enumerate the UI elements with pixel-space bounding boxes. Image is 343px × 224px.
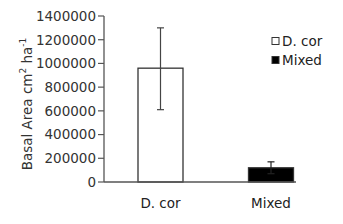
legend-label: D. cor [282, 33, 323, 49]
x-category-label: D. cor [140, 195, 181, 211]
y-tick-label: 800000 [44, 79, 96, 95]
y-tick-label: 0 [87, 174, 96, 190]
legend: D. corMixed [272, 33, 323, 68]
y-axis-title: Basal Area cm2 ha-1 [18, 38, 35, 171]
legend-swatch [272, 57, 279, 64]
y-tick-label: 600000 [44, 103, 96, 119]
y-tick-label: 1400000 [36, 8, 96, 24]
y-tick-label: 200000 [44, 150, 96, 166]
x-axis-category-labels: D. corMixed [140, 195, 291, 211]
bar-chart: 0200000400000600000800000100000012000001… [0, 0, 343, 224]
y-tick-label: 1000000 [36, 55, 96, 71]
y-tick-label: 1200000 [36, 32, 96, 48]
y-axis-title-mid: ha [19, 47, 35, 68]
bars [138, 68, 294, 182]
legend-swatch [272, 38, 279, 45]
y-tick-label: 400000 [44, 126, 96, 142]
y-axis-ticks: 0200000400000600000800000100000012000001… [36, 8, 104, 190]
y-axis-title-base: Basal Area cm [19, 74, 35, 171]
x-category-label: Mixed [251, 195, 291, 211]
legend-label: Mixed [282, 52, 322, 68]
y-axis-title-sup2: -1 [18, 38, 28, 47]
